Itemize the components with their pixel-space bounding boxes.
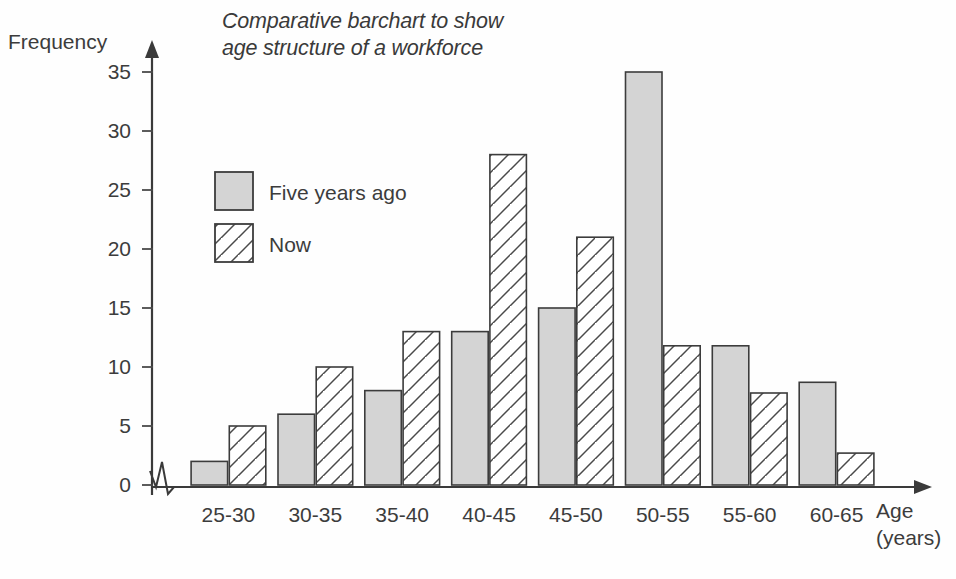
bar [751,393,788,485]
bar [799,382,836,485]
bar [539,308,576,485]
legend-swatch [215,172,253,210]
bar [626,72,663,485]
bar [664,346,701,485]
x-tick-label: 55-60 [723,503,777,526]
bar [490,155,527,485]
y-tick-label: 30 [108,119,131,142]
bar [316,367,353,485]
axis-break-icon [150,462,182,494]
bar [191,461,228,485]
bar [577,237,614,485]
y-tick-label: 35 [108,60,131,83]
legend-swatch [215,224,253,262]
y-axis-arrow-icon [145,40,159,58]
x-axis-arrow-icon [914,480,932,494]
x-tick-label: 40-45 [462,503,516,526]
y-tick-label: 20 [108,237,131,260]
bar [712,346,749,485]
bar [278,414,315,485]
bar [452,332,489,485]
y-tick-label: 25 [108,178,131,201]
legend-label: Five years ago [269,181,407,204]
barchart-plot: 05101520253035 25-3030-3535-4040-4545-50… [0,0,956,579]
x-tick-label: 50-55 [636,503,690,526]
x-tick-label: 35-40 [375,503,429,526]
bar [837,453,874,485]
y-tick-label: 15 [108,296,131,319]
y-tick-label: 10 [108,355,131,378]
chart-page: Comparative barchart to show age structu… [0,0,956,579]
y-tick-label: 0 [119,473,131,496]
legend-label: Now [269,233,312,256]
x-tick-label: 45-50 [549,503,603,526]
x-axis-tick-labels: 25-3030-3535-4040-4545-5050-5555-6060-65 [202,503,864,526]
y-tick-label: 5 [119,414,131,437]
bar [229,426,265,485]
bar [365,391,402,485]
y-axis-ticks: 05101520253035 [108,60,153,496]
x-tick-label: 60-65 [810,503,864,526]
x-tick-label: 30-35 [288,503,342,526]
x-tick-label: 25-30 [202,503,256,526]
bar-group-container [191,72,874,485]
bar [403,332,440,485]
chart-legend: Five years agoNow [215,172,407,262]
